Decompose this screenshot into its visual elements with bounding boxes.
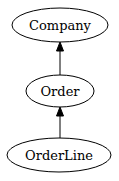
arrowhead-icon [57, 42, 64, 51]
diagram-canvas: Company Order OrderLine [0, 0, 119, 181]
arrowhead-icon [57, 107, 64, 116]
node-company[interactable]: Company [12, 8, 108, 42]
edge-order-to-company [57, 42, 64, 75]
node-label: OrderLine [25, 148, 93, 163]
node-label: Company [29, 18, 92, 33]
graph-svg: Company Order OrderLine [0, 0, 119, 181]
node-order[interactable]: Order [26, 75, 94, 107]
node-label: Order [40, 84, 80, 99]
node-orderline[interactable]: OrderLine [7, 138, 111, 172]
edge-orderline-to-order [57, 107, 64, 138]
